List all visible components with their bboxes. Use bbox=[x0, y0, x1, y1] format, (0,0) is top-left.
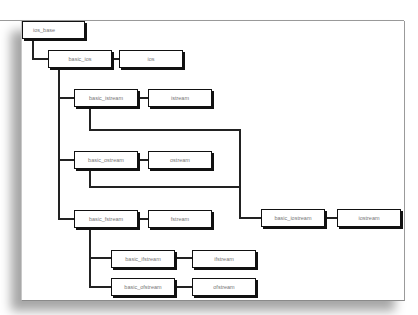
connector bbox=[32, 58, 48, 60]
connector bbox=[323, 217, 337, 219]
node-istream: istream bbox=[148, 89, 212, 107]
node-basic-ifstream: basic_ifstream bbox=[111, 250, 175, 268]
connector bbox=[173, 257, 192, 259]
connector bbox=[58, 97, 74, 99]
connector bbox=[89, 286, 111, 288]
node-ifstream: ifstream bbox=[192, 250, 256, 268]
node-ios: ios bbox=[119, 50, 183, 68]
node-basic-fstream: basic_fstream bbox=[74, 210, 138, 228]
node-ostream: ostream bbox=[148, 151, 212, 169]
node-basic-istream: basic_istream bbox=[74, 89, 138, 107]
connector bbox=[58, 218, 74, 220]
node-ios-base: ios_base bbox=[22, 21, 85, 39]
node-basic-ios: basic_ios bbox=[48, 50, 112, 68]
node-iostream: iostream bbox=[337, 209, 401, 227]
connector bbox=[89, 186, 241, 188]
connector bbox=[239, 217, 261, 219]
connector bbox=[89, 257, 111, 259]
connector bbox=[173, 286, 192, 288]
connector bbox=[58, 68, 60, 220]
connector bbox=[58, 159, 74, 161]
connector bbox=[32, 40, 34, 60]
node-basic-iostream: basic_iostream bbox=[261, 209, 325, 227]
connector bbox=[89, 107, 91, 131]
connector bbox=[89, 129, 241, 131]
node-ofstream: ofstream bbox=[192, 278, 256, 296]
node-fstream: fstream bbox=[148, 210, 212, 228]
node-basic-ostream: basic_ostream bbox=[74, 151, 138, 169]
connector bbox=[239, 129, 241, 219]
node-basic-ofstream: basic_ofstream bbox=[111, 278, 175, 296]
